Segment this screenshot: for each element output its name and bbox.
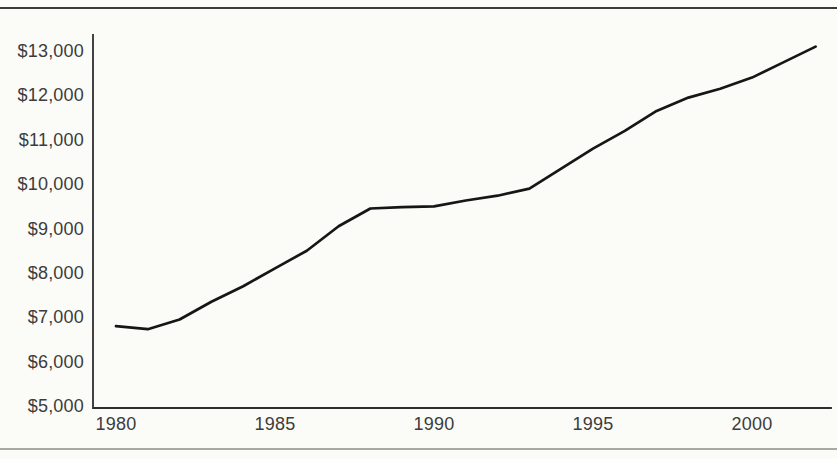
data-line bbox=[116, 47, 816, 330]
y-tick-label: $10,000 bbox=[2, 174, 84, 194]
y-tick-label: $12,000 bbox=[2, 85, 84, 105]
line-chart: $13,000$12,000$11,000$10,000$9,000$8,000… bbox=[0, 0, 837, 459]
y-tick-label: $7,000 bbox=[2, 307, 84, 327]
chart-canvas bbox=[0, 0, 837, 459]
y-tick-label: $9,000 bbox=[2, 219, 84, 239]
x-tick-label: 1995 bbox=[553, 414, 633, 434]
y-tick-label: $8,000 bbox=[2, 263, 84, 283]
scanned-figure-page: $13,000$12,000$11,000$10,000$9,000$8,000… bbox=[0, 0, 837, 459]
axes bbox=[93, 35, 831, 408]
y-tick-label: $6,000 bbox=[2, 352, 84, 372]
bottom-rule bbox=[0, 448, 837, 450]
x-tick-label: 2000 bbox=[712, 414, 792, 434]
x-tick-label: 1990 bbox=[394, 414, 474, 434]
y-tick-label: $13,000 bbox=[2, 41, 84, 61]
x-tick-label: 1980 bbox=[76, 414, 156, 434]
y-tick-label: $5,000 bbox=[2, 396, 84, 416]
x-tick-label: 1985 bbox=[235, 414, 315, 434]
y-tick-label: $11,000 bbox=[2, 130, 84, 150]
